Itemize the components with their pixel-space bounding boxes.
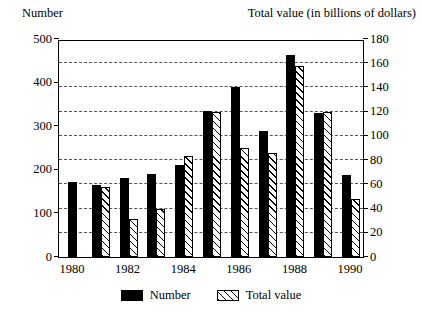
- bar-number: [68, 182, 77, 257]
- legend-swatch-number: [121, 290, 143, 301]
- bar-total-value: [129, 219, 138, 257]
- x-axis-label: 1982: [115, 262, 140, 277]
- bar-group: [282, 39, 310, 257]
- bar-total-value: [212, 112, 221, 257]
- right-tick-label: 60: [370, 178, 383, 191]
- bar-number: [92, 185, 101, 257]
- right-tick-label: 80: [370, 154, 383, 167]
- bar-number: [342, 175, 351, 257]
- x-axis-label: 1988: [282, 262, 307, 277]
- bar-total-value: [184, 156, 193, 257]
- x-axis-label: 1986: [226, 262, 251, 277]
- bar-total-value: [240, 148, 249, 257]
- right-tick-label: 180: [370, 33, 389, 46]
- legend-label-number: Number: [150, 288, 191, 303]
- bar-number: [147, 174, 156, 257]
- bar-number: [203, 111, 212, 257]
- plot-area: 0100200300400500 02040608010012014016018…: [58, 40, 364, 258]
- left-tick-label: 0: [46, 251, 52, 264]
- right-tick-label: 140: [370, 81, 389, 94]
- bar-group: [254, 39, 282, 257]
- bar-total-value: [268, 153, 277, 257]
- right-tick-label: 100: [370, 129, 389, 142]
- bar-total-value: [295, 66, 304, 257]
- bar-number: [259, 131, 268, 257]
- left-tick-label: 500: [33, 33, 52, 46]
- legend-swatch-total-value: [217, 290, 239, 301]
- right-tick-label: 20: [370, 226, 383, 239]
- legend-item-number: Number: [121, 288, 191, 303]
- bar-number: [175, 165, 184, 257]
- right-tick-label: 0: [370, 251, 376, 264]
- bar-group: [309, 39, 337, 257]
- right-tick-label: 160: [370, 57, 389, 70]
- legend-item-total-value: Total value: [217, 288, 302, 303]
- left-tick-label: 100: [33, 207, 52, 220]
- x-axis-label: 1990: [338, 262, 363, 277]
- bar-group: [226, 39, 254, 257]
- bar-chart: Number Total value (in billions of dolla…: [0, 0, 422, 319]
- right-tick-label: 120: [370, 105, 389, 118]
- bar-total-value: [351, 199, 360, 257]
- bar-group: [115, 39, 143, 257]
- bar-total-value: [323, 112, 332, 257]
- bar-group: [142, 39, 170, 257]
- x-axis-label: 1980: [59, 262, 84, 277]
- left-axis-title: Number: [22, 6, 63, 21]
- bar-group: [59, 39, 87, 257]
- chart-legend: Number Total value: [0, 288, 422, 303]
- bar-series-container: [59, 41, 363, 257]
- legend-label-total-value: Total value: [246, 288, 302, 303]
- bar-total-value: [156, 209, 165, 257]
- x-axis-label: 1984: [171, 262, 196, 277]
- bar-number: [286, 55, 295, 257]
- bar-total-value: [101, 187, 110, 257]
- bar-group: [198, 39, 226, 257]
- left-tick-label: 400: [33, 76, 52, 89]
- right-axis-title: Total value (in billions of dollars): [248, 6, 416, 21]
- left-tick-label: 200: [33, 163, 52, 176]
- bar-group: [170, 39, 198, 257]
- bar-number: [314, 113, 323, 257]
- left-tick-label: 300: [33, 120, 52, 133]
- bar-number: [231, 87, 240, 257]
- right-tick-label: 40: [370, 202, 383, 215]
- bar-group: [337, 39, 365, 257]
- bar-group: [87, 39, 115, 257]
- bar-number: [120, 178, 129, 257]
